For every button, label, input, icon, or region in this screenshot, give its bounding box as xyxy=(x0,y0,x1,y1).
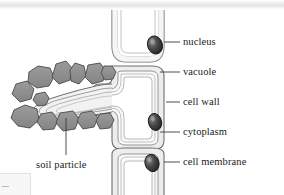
label-cell-wall: cell wall xyxy=(183,97,220,108)
label-soil-particle: soil particle xyxy=(36,160,87,171)
soil-particle xyxy=(77,111,98,129)
soil-particle xyxy=(28,66,54,88)
label-nucleus: nucleus xyxy=(183,37,216,48)
corner-panel xyxy=(0,173,31,195)
soil-particle xyxy=(52,61,72,84)
soil-particle xyxy=(56,111,79,131)
label-cell-membrane: cell membrane xyxy=(183,157,246,168)
figure-root: nucleus vacuole cell wall cytoplasm cell… xyxy=(0,0,284,195)
label-cytoplasm: cytoplasm xyxy=(183,127,227,138)
soil-particle xyxy=(11,105,39,128)
soil-particle xyxy=(96,113,114,129)
soil-particle xyxy=(70,63,86,84)
label-vacuole: vacuole xyxy=(183,67,216,78)
corner-dash-mark xyxy=(2,186,9,187)
soil-particle xyxy=(33,92,49,106)
